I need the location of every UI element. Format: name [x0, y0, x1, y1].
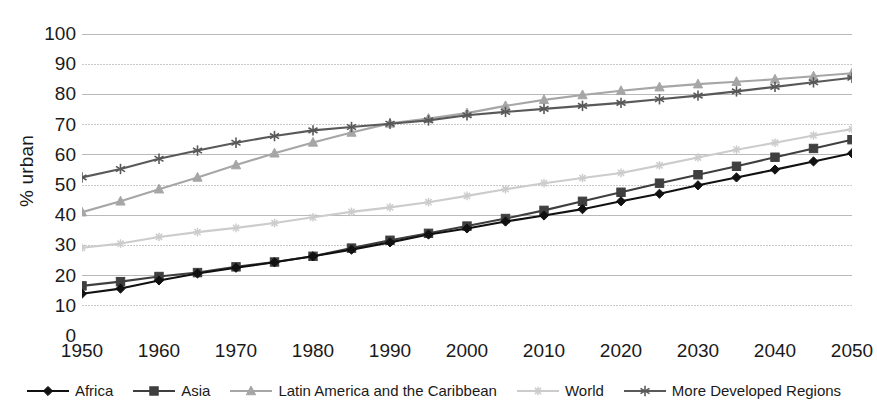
legend-swatch-square-icon [131, 383, 177, 399]
legend-label: More Developed Regions [672, 383, 841, 399]
data-point-marker [540, 179, 549, 188]
data-point-marker [655, 179, 663, 187]
x-axis-tick-label: 1980 [281, 340, 345, 362]
x-axis-tick-label: 2000 [435, 340, 499, 362]
data-point-marker [386, 203, 395, 212]
data-point-marker [732, 145, 741, 154]
legend-swatch-diamond-icon [25, 383, 71, 399]
y-axis-tick-label: 100 [30, 24, 76, 43]
data-point-marker [848, 136, 852, 144]
data-point-marker [693, 181, 702, 190]
y-axis-tick-label: 20 [30, 266, 76, 285]
data-point-marker [424, 198, 433, 207]
x-axis-tick-label: 2050 [820, 340, 877, 362]
data-point-marker [617, 169, 626, 178]
legend-item-world[interactable]: World [515, 383, 604, 399]
y-axis-tick-label: 80 [30, 84, 76, 103]
data-point-marker [770, 165, 779, 174]
chart-legend: AfricaAsiaLatin America and the Caribbea… [0, 378, 866, 404]
data-point-marker [732, 173, 741, 182]
data-point-marker [578, 174, 587, 183]
data-point-marker [847, 149, 852, 158]
data-point-marker [694, 171, 702, 179]
series-asia [82, 136, 852, 291]
y-axis-tick-label: 30 [30, 235, 76, 254]
data-point-marker [809, 131, 818, 140]
x-axis-tick-label: 2010 [512, 340, 576, 362]
data-point-marker [616, 197, 625, 206]
data-point-marker [347, 208, 356, 217]
legend-label: Africa [75, 383, 113, 399]
legend-item-asia[interactable]: Asia [131, 383, 210, 399]
data-point-marker [655, 161, 664, 170]
y-axis-tick-label: 60 [30, 145, 76, 164]
data-point-marker [82, 282, 86, 290]
data-point-marker [155, 233, 164, 242]
data-point-marker [848, 125, 852, 134]
x-axis-tick-label: 2020 [589, 340, 653, 362]
data-point-marker [771, 138, 780, 147]
legend-label: World [565, 383, 604, 399]
y-axis-tick-label: 40 [30, 205, 76, 224]
x-axis-tick-label: 1990 [358, 340, 422, 362]
legend-item-africa[interactable]: Africa [25, 383, 113, 399]
data-point-marker [309, 213, 318, 222]
y-axis-tick-label: 90 [30, 54, 76, 73]
data-point-marker [809, 157, 818, 166]
legend-label: Latin America and the Caribbean [278, 383, 496, 399]
data-point-marker [694, 153, 703, 162]
x-axis-tick-label: 1960 [127, 340, 191, 362]
x-axis-tick-label: 1970 [204, 340, 268, 362]
data-point-marker [655, 189, 664, 198]
legend-label: Asia [181, 383, 210, 399]
data-point-marker [150, 387, 158, 395]
data-point-marker [43, 386, 52, 395]
x-axis-tick-label: 2030 [666, 340, 730, 362]
x-axis-tick-label: 1950 [50, 340, 114, 362]
legend-swatch-cross-icon [515, 383, 561, 399]
x-axis-tick-label: 2040 [743, 340, 807, 362]
data-point-marker [771, 153, 779, 161]
data-point-marker [463, 192, 472, 201]
data-point-marker [270, 219, 279, 228]
plot-area [82, 34, 852, 336]
data-point-marker [534, 387, 543, 396]
y-axis-tick-label: 50 [30, 175, 76, 194]
data-point-marker [116, 239, 125, 248]
y-axis-tick-labels: 0102030405060708090100 [22, 34, 76, 336]
legend-swatch-asterisk-icon [622, 383, 668, 399]
data-point-marker [809, 144, 817, 152]
legend-item-more-developed-regions[interactable]: More Developed Regions [622, 383, 841, 399]
data-point-marker [82, 244, 86, 253]
plot-svg [82, 34, 852, 336]
data-point-marker [501, 185, 510, 194]
data-point-marker [617, 188, 625, 196]
legend-item-latin-america-and-the-caribbean[interactable]: Latin America and the Caribbean [228, 383, 496, 399]
y-axis-tick-label: 70 [30, 115, 76, 134]
data-point-marker [732, 162, 740, 170]
data-point-marker [193, 228, 202, 237]
data-point-marker [232, 224, 241, 233]
caption-remnant [14, 0, 274, 6]
legend-swatch-triangle-icon [228, 383, 274, 399]
y-axis-tick-label: 10 [30, 296, 76, 315]
x-axis-tick-labels: 1950196019701980199020002010202020302040… [82, 340, 852, 366]
